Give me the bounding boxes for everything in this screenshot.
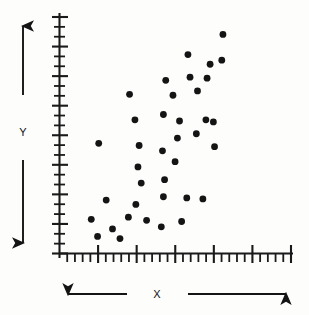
x-axis-label: X [153,288,161,300]
data-point [95,140,102,147]
data-point [103,197,110,204]
data-point [160,193,167,200]
data-point-group [88,31,226,242]
scatter-plot-figure: Y X [0,0,309,315]
data-point [161,176,168,183]
data-point [132,116,139,123]
data-point [187,74,194,81]
data-point [183,195,190,202]
data-point [194,88,201,95]
data-point [174,135,181,142]
data-point [126,91,133,98]
data-point [136,142,143,149]
data-point [178,218,185,225]
data-point [94,233,101,240]
data-point [125,214,132,221]
data-point [109,226,116,233]
data-point [159,147,166,154]
data-point [204,75,211,82]
data-point [203,116,210,123]
data-point [176,118,183,125]
y-axis-label: Y [19,126,27,138]
data-point [117,235,124,242]
data-point [162,77,169,84]
data-point [160,111,167,118]
data-point [211,143,218,150]
data-point [88,216,95,223]
data-point [210,119,217,126]
data-point [170,92,177,99]
plot-canvas: Y X [0,0,309,315]
data-point [135,164,142,171]
data-point [185,51,192,58]
data-point [132,201,139,208]
data-point [218,57,225,64]
data-point [199,196,206,203]
data-point [143,217,150,224]
data-point [158,223,165,230]
data-point [207,61,214,68]
data-point [220,31,227,38]
data-point [138,180,145,187]
data-point [172,158,179,165]
data-point [193,130,200,137]
